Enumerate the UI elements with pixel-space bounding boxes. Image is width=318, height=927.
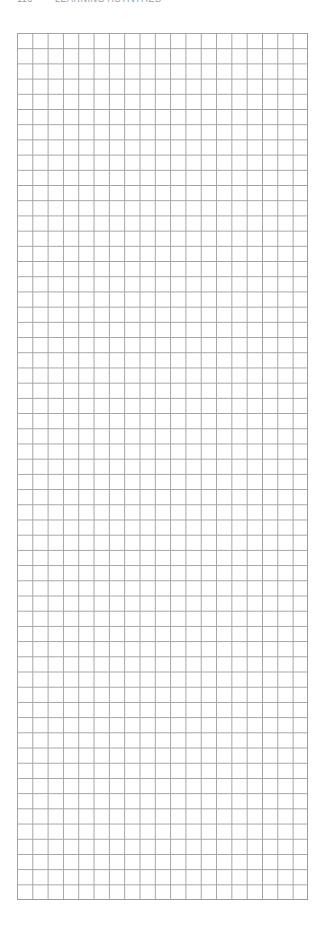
graph-paper-grid <box>17 33 308 900</box>
running-header-title: LEARNING ACTIVITIES <box>55 0 162 4</box>
page-number: 116 <box>17 0 33 4</box>
running-header: 116 LEARNING ACTIVITIES <box>0 0 318 6</box>
